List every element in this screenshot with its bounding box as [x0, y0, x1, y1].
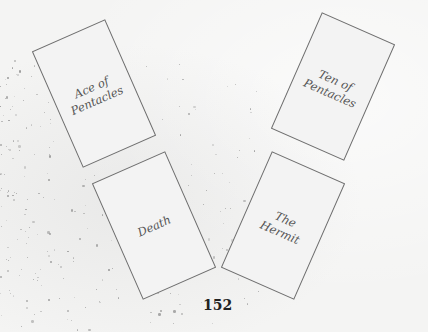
speck: [150, 322, 152, 324]
speck: [239, 150, 240, 151]
speck: [53, 141, 54, 142]
speck: [54, 249, 56, 251]
speck: [12, 106, 13, 107]
speck: [7, 247, 9, 249]
page-number: 152: [203, 297, 232, 313]
speck: [225, 208, 226, 209]
speck: [50, 123, 51, 124]
speck: [26, 127, 28, 129]
speck: [99, 302, 101, 304]
speck: [83, 213, 85, 215]
speck: [77, 329, 79, 331]
speck: [87, 228, 88, 229]
speck: [54, 199, 56, 201]
speck: [26, 300, 28, 302]
card-label: Ace of Pentacles: [62, 69, 124, 117]
speck: [23, 100, 25, 102]
speck: [88, 329, 91, 332]
speck: [4, 174, 5, 175]
speck: [1, 121, 3, 123]
speck: [50, 261, 52, 263]
speck: [220, 211, 221, 212]
speck: [28, 237, 29, 238]
speck: [35, 273, 37, 275]
speck: [24, 88, 26, 90]
speck: [173, 310, 176, 313]
speck: [17, 239, 18, 240]
speck: [179, 64, 180, 65]
speck: [112, 268, 113, 269]
speck: [170, 293, 171, 294]
speck: [173, 323, 174, 324]
speck: [6, 220, 7, 221]
speck: [34, 65, 36, 67]
speck: [6, 96, 9, 99]
speck: [29, 227, 30, 228]
speck: [146, 66, 148, 68]
speck: [19, 275, 20, 276]
speck: [74, 211, 76, 213]
speck: [1, 188, 2, 189]
speck: [17, 140, 19, 142]
speck: [222, 248, 223, 249]
speck: [47, 251, 48, 252]
speck: [26, 243, 27, 244]
speck: [208, 238, 211, 241]
speck: [67, 319, 68, 320]
speck: [158, 313, 161, 316]
speck: [17, 74, 19, 76]
speck: [178, 294, 180, 296]
speck: [201, 302, 202, 303]
speck: [6, 259, 7, 260]
speck: [180, 134, 182, 136]
speck: [7, 270, 9, 272]
speck: [258, 291, 259, 292]
speck: [160, 310, 162, 312]
speck: [85, 179, 86, 180]
speck: [73, 257, 75, 259]
speck: [3, 115, 5, 117]
speck: [238, 278, 240, 280]
speck: [111, 240, 113, 242]
speck: [206, 190, 207, 191]
speck: [212, 323, 213, 324]
speck: [13, 295, 15, 297]
speck: [20, 229, 22, 231]
speck: [6, 146, 7, 147]
speck: [94, 175, 95, 176]
speck: [181, 313, 183, 315]
speck: [118, 297, 120, 299]
speck: [32, 221, 35, 224]
speck: [222, 173, 223, 174]
speck: [34, 314, 35, 315]
speck: [31, 320, 34, 323]
speck: [227, 86, 228, 87]
speck: [235, 84, 236, 85]
speck: [85, 307, 86, 308]
speck: [71, 320, 72, 321]
speck: [96, 289, 97, 290]
speck: [223, 223, 224, 224]
speck: [49, 147, 50, 148]
speck: [7, 192, 8, 193]
speck: [50, 119, 51, 120]
speck: [247, 303, 249, 305]
speck: [19, 150, 20, 151]
speck: [48, 255, 51, 258]
speck: [24, 214, 26, 216]
speck: [48, 179, 50, 181]
speck: [243, 200, 246, 203]
speck: [37, 277, 39, 279]
speck: [27, 199, 28, 200]
speck: [191, 164, 192, 165]
speck: [74, 297, 75, 298]
speck: [60, 266, 62, 268]
speck: [203, 204, 205, 206]
speck: [10, 257, 11, 258]
speck: [214, 173, 215, 174]
speck: [14, 96, 15, 97]
speck: [0, 106, 1, 107]
speck: [12, 195, 14, 197]
speck: [1, 206, 2, 207]
speck: [182, 79, 184, 81]
